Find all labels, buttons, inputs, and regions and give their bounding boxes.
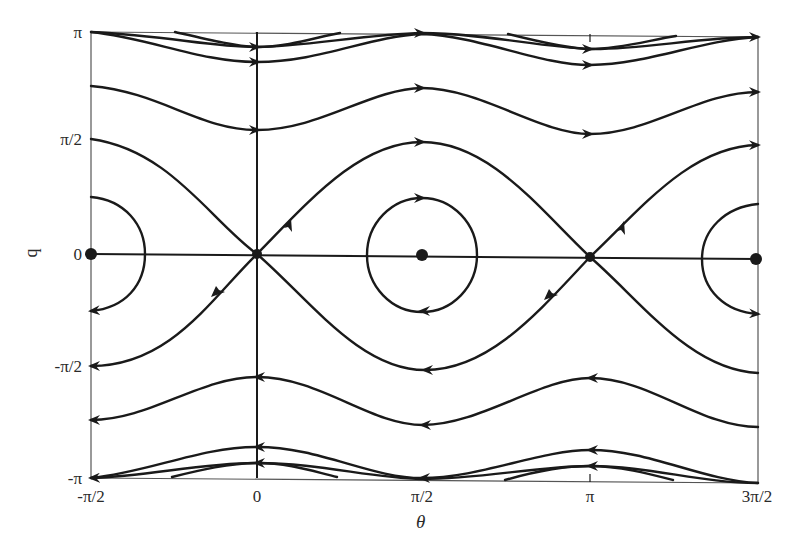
ytick-label: π [22,24,82,41]
trajectory-upper-3 [91,86,758,134]
equilibrium-points [85,248,762,265]
ytick-label: -π [22,470,82,487]
trajectory-lower-1b [172,463,337,477]
saddle-point-pi [585,252,595,262]
trajectory-upper-2 [91,32,758,65]
center-point-right [750,253,762,265]
center-point-mid [416,249,428,261]
ytick-label: π/2 [22,131,82,148]
center-point-left [85,248,97,260]
trajectory-lower-3 [91,377,758,427]
ytick-label: -π/2 [22,358,82,375]
xtick-label: -π/2 [61,488,121,505]
phase-portrait [0,0,795,556]
xtick-label: π [560,488,620,505]
y-axis-label: q [22,249,40,258]
saddle-point-zero [252,249,262,259]
xtick-label: 3π/2 [727,488,787,505]
xtick-label: 0 [227,488,287,505]
trajectory-lower-1c [505,466,673,480]
xtick-label: π/2 [392,488,452,505]
x-axis-label: θ [416,512,425,531]
